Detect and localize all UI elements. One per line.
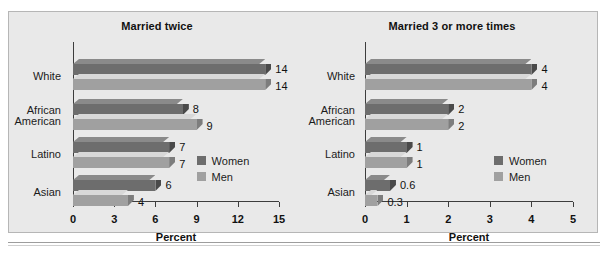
bar-men-left-2 (73, 157, 169, 168)
value-label-women-right-1: 2 (458, 103, 464, 115)
plot-area-left: Percent 03691215White1414African America… (73, 42, 279, 202)
category-label-right-0: White (275, 71, 355, 82)
x-tick-label-left-0: 0 (70, 213, 76, 225)
x-tick-label-left-3: 9 (194, 213, 200, 225)
bar-women-right-2 (365, 142, 407, 153)
x-tick-right-2 (448, 202, 449, 207)
legend-label-women: Women (212, 155, 250, 167)
x-tick-right-5 (573, 202, 574, 207)
bar-front-face (365, 180, 390, 191)
x-tick-left-5 (279, 202, 280, 207)
legend-label-women: Women (509, 155, 547, 167)
bottom-rule-shadow (8, 245, 600, 246)
bottom-rule (8, 242, 600, 243)
bar-men-right-1 (365, 119, 448, 130)
bar-side-face (390, 180, 396, 191)
bar-men-left-3 (73, 195, 128, 206)
bar-side-face (265, 64, 271, 75)
category-label-left-1: African American (0, 105, 61, 127)
value-label-women-left-1: 8 (193, 103, 199, 115)
bar-women-left-1 (73, 104, 183, 115)
bar-women-left-2 (73, 142, 169, 153)
bar-front-face (73, 64, 265, 75)
bar-front-face (73, 119, 197, 130)
legend-swatch-men-icon (494, 172, 503, 181)
value-label-men-left-1: 9 (207, 120, 213, 132)
chart-title-right: Married 3 or more times (305, 20, 599, 32)
value-label-men-right-0: 4 (541, 80, 547, 92)
x-tick-label-right-5: 5 (570, 213, 576, 225)
x-tick-right-4 (531, 202, 532, 207)
bar-front-face (73, 142, 169, 153)
bar-front-face (365, 119, 448, 130)
bar-side-face (197, 119, 203, 130)
legend-swatch-men-icon (197, 172, 206, 181)
bar-front-face (73, 104, 183, 115)
chart-title-left: Married twice (9, 20, 305, 32)
bar-front-face (365, 195, 377, 206)
bar-side-face (183, 104, 189, 115)
category-label-left-3: Asian (0, 187, 61, 198)
category-label-right-1: African American (275, 105, 355, 127)
x-tick-label-right-0: 0 (362, 213, 368, 225)
chart-panel-married-twice: Married twice Percent 03691215White1414A… (9, 12, 305, 234)
bar-side-face (169, 157, 175, 168)
bar-front-face (365, 157, 407, 168)
value-label-women-right-3: 0.6 (400, 179, 415, 191)
bar-women-right-3 (365, 180, 390, 191)
x-tick-left-3 (197, 202, 198, 207)
x-tick-label-right-2: 2 (445, 213, 451, 225)
value-label-women-left-3: 6 (165, 179, 171, 191)
value-label-women-right-2: 1 (417, 141, 423, 153)
x-tick-label-right-3: 3 (487, 213, 493, 225)
x-tick-left-2 (155, 202, 156, 207)
bar-side-face (531, 79, 537, 90)
category-label-right-3: Asian (275, 187, 355, 198)
x-tick-left-4 (238, 202, 239, 207)
bar-women-left-0 (73, 64, 265, 75)
bar-front-face (73, 79, 265, 90)
value-label-men-right-3: 0.3 (387, 196, 402, 208)
bar-men-right-2 (365, 157, 407, 168)
x-tick-label-right-1: 1 (404, 213, 410, 225)
bar-women-left-3 (73, 180, 155, 191)
bar-front-face (365, 79, 531, 90)
bar-front-face (365, 104, 448, 115)
legend-label-men: Men (509, 171, 530, 183)
x-tick-label-left-5: 15 (273, 213, 285, 225)
x-tick-right-1 (407, 202, 408, 207)
value-label-women-left-2: 7 (179, 141, 185, 153)
x-tick-label-left-4: 12 (232, 213, 244, 225)
bar-side-face (448, 104, 454, 115)
legend-swatch-women-icon (197, 156, 206, 165)
bar-side-face (265, 79, 271, 90)
bar-side-face (128, 195, 134, 206)
category-label-left-0: White (0, 71, 61, 82)
chart-frame: Married twice Percent 03691215White1414A… (8, 11, 598, 233)
value-label-women-right-0: 4 (541, 63, 547, 75)
bar-women-right-0 (365, 64, 531, 75)
bar-women-right-1 (365, 104, 448, 115)
bar-front-face (73, 195, 128, 206)
category-label-left-2: Latino (0, 149, 61, 160)
bar-side-face (155, 180, 161, 191)
bar-front-face (73, 180, 155, 191)
x-tick-label-left-1: 3 (111, 213, 117, 225)
bar-men-right-0 (365, 79, 531, 90)
value-label-men-right-2: 1 (417, 158, 423, 170)
value-label-men-left-2: 7 (179, 158, 185, 170)
legend-swatch-women-icon (494, 156, 503, 165)
chart-panel-married-3-or-more: Married 3 or more times Percent 012345Wh… (305, 12, 599, 234)
bar-side-face (407, 157, 413, 168)
bar-men-left-0 (73, 79, 265, 90)
bar-side-face (448, 119, 454, 130)
plot-area-right: Percent 012345White44African American22L… (365, 42, 573, 202)
value-label-men-right-1: 2 (458, 120, 464, 132)
bar-front-face (365, 142, 407, 153)
value-label-men-left-3: 4 (138, 196, 144, 208)
x-tick-right-3 (490, 202, 491, 207)
category-label-right-2: Latino (275, 149, 355, 160)
legend-label-men: Men (212, 171, 233, 183)
bar-men-left-1 (73, 119, 197, 130)
bar-men-right-3 (365, 195, 377, 206)
